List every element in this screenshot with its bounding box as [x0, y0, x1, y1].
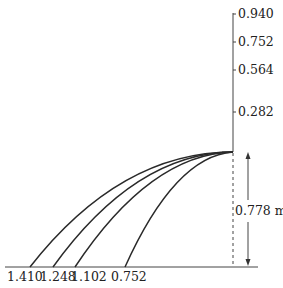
trajectory-1102 — [75, 152, 233, 267]
landing-label-1102: 1.102 — [71, 269, 107, 284]
trajectory-0752 — [125, 152, 233, 267]
tick-label-0564: 0.564 — [238, 62, 274, 77]
height-dimension-label: 0.778 m — [235, 203, 283, 218]
arrow-up-icon — [246, 152, 251, 159]
tick-label-0940: 0.940 — [238, 6, 274, 21]
tick-label-0752: 0.752 — [238, 34, 274, 49]
arrow-down-icon — [246, 259, 251, 266]
tick-label-0282: 0.282 — [238, 104, 274, 119]
projectile-trajectory-diagram: 0.940 0.752 0.564 0.282 0.778 m 1.410 1.… — [0, 0, 283, 288]
trajectory-1410 — [30, 152, 233, 267]
trajectory-1248 — [53, 152, 233, 267]
landing-label-0752: 0.752 — [111, 269, 147, 284]
landing-label-1410: 1.410 — [7, 269, 43, 284]
